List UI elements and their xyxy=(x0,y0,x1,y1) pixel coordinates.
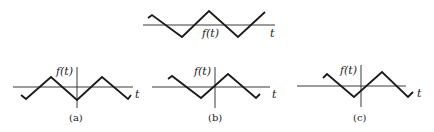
figure-top: f(t) t xyxy=(143,11,275,40)
triangle-waveform xyxy=(168,74,260,98)
triangle-waveform xyxy=(21,77,131,100)
caption-a: (a) xyxy=(69,112,83,123)
figure-b: f(t) t (b) xyxy=(152,65,277,123)
function-label: f(t) xyxy=(193,65,211,78)
diagram-canvas: f(t) t f(t) t (a) f(t) t (b) f(t) t (c) xyxy=(0,0,434,132)
axis-label-t: t xyxy=(270,27,275,40)
caption-c: (c) xyxy=(353,112,367,123)
axis-label-t: t xyxy=(417,87,422,100)
function-label: f(t) xyxy=(339,64,357,77)
axis-label-t: t xyxy=(272,88,277,101)
figure-a: f(t) t (a) xyxy=(13,65,140,123)
triangle-waveform xyxy=(323,72,413,97)
function-label: f(t) xyxy=(55,65,73,78)
figure-c: f(t) t (c) xyxy=(297,64,422,123)
caption-b: (b) xyxy=(208,112,222,123)
axis-label-t: t xyxy=(135,88,140,101)
function-label: f(t) xyxy=(201,27,219,40)
